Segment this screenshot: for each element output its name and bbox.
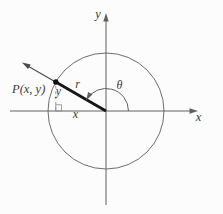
- y-axis-arrow-icon: [103, 13, 108, 22]
- x-coordinate-label: x: [72, 107, 79, 121]
- y-coordinate-label: y: [55, 84, 62, 98]
- y-axis-label: y: [93, 7, 101, 21]
- radius-label: r: [75, 77, 80, 91]
- x-axis-label: x: [195, 110, 202, 124]
- angle-arc: [87, 88, 129, 111]
- terminal-ray-arrow-icon: [22, 63, 31, 70]
- right-angle-marker: [56, 105, 62, 111]
- trig-circle-figure: P(x, y) r θ y x y x: [0, 0, 223, 214]
- radius-segment: [56, 82, 106, 111]
- angle-theta-label: θ: [117, 78, 123, 92]
- diagram-canvas: P(x, y) r θ y x y x: [0, 0, 223, 214]
- point-p-label: P(x, y): [11, 82, 45, 96]
